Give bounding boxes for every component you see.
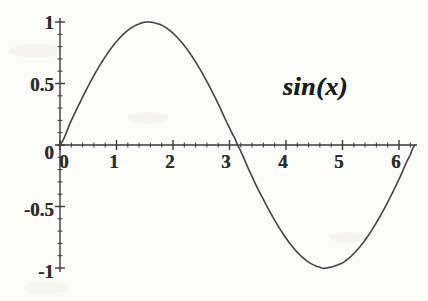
curve-annotation-label: sin(x) — [283, 72, 348, 102]
x-tick-label-2: 2 — [165, 152, 175, 171]
y-tick-label-0: 0 — [45, 143, 55, 162]
y-tick-label-0-5: 0.5 — [30, 74, 54, 93]
sine-plot-figure: 1 0.5 0 -0.5 -1 0 1 2 3 4 5 6 sin(x) — [0, 0, 428, 301]
x-tick-label-3: 3 — [221, 152, 231, 171]
y-tick-label-neg-1: -1 — [38, 262, 54, 281]
x-tick-label-1: 1 — [109, 152, 119, 171]
x-tick-label-6: 6 — [391, 152, 401, 171]
y-tick-label-1: 1 — [45, 13, 55, 32]
x-tick-label-5: 5 — [334, 152, 344, 171]
x-tick-label-4: 4 — [278, 152, 288, 171]
y-tick-label-neg-0-5: -0.5 — [24, 200, 54, 219]
x-tick-label-0: 0 — [59, 152, 69, 171]
